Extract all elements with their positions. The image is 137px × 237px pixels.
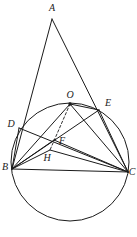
point-dot-o [68,102,71,105]
figure-canvas [0,0,137,237]
point-dot-layer [68,102,71,105]
point-label-c: C [129,167,136,177]
point-label-e: E [105,98,111,108]
geometry-figure: AOEDFHBC [0,0,137,237]
point-label-a: A [49,3,55,13]
segment-CF [54,140,128,172]
segment-BC [12,169,128,172]
point-label-b: B [2,162,8,172]
segment-CH [50,150,128,172]
point-label-o: O [66,90,73,100]
point-label-h: H [43,153,50,163]
point-label-d: D [7,119,14,129]
circumcircle [11,103,129,221]
circle-layer [11,103,129,221]
point-label-f: F [59,136,65,146]
segment-AC [52,19,128,172]
segment-CE [99,110,128,172]
